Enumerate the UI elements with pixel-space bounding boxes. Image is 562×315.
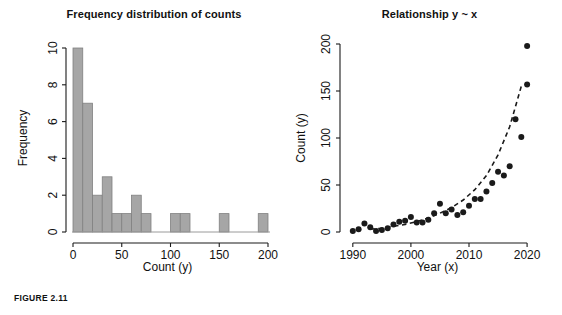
scatter-point <box>408 214 414 220</box>
scatter-point <box>350 228 356 234</box>
scatter-point <box>483 189 489 195</box>
histogram-x-axis-title: Count (y) <box>60 260 275 274</box>
histogram-y-tick-label: 2 <box>46 192 60 199</box>
scatter-point <box>501 173 507 179</box>
histogram-bar <box>141 214 151 232</box>
scatter-point <box>507 163 513 169</box>
scatter-point <box>431 210 437 216</box>
histogram-y-tick-label: 4 <box>46 155 60 162</box>
scatter-point <box>449 206 455 212</box>
scatter-point <box>390 221 396 227</box>
scatter-point <box>478 196 484 202</box>
scatter-panel: Relationship y ~ x 050100150200199020002… <box>285 0 562 290</box>
scatter-point <box>460 209 466 215</box>
histogram-y-tick-label: 6 <box>46 118 60 125</box>
histogram-y-tick-label: 8 <box>46 81 60 88</box>
scatter-point <box>367 224 373 230</box>
histogram-panel: Frequency distribution of counts 0246810… <box>0 0 290 290</box>
scatter-point <box>437 201 443 207</box>
scatter-point <box>443 210 449 216</box>
histogram-bar <box>102 177 112 232</box>
scatter-point <box>402 218 408 224</box>
figure-caption: FIGURE 2.11 <box>14 293 68 303</box>
scatter-y-tick-label: 50 <box>319 178 333 192</box>
histogram-bar <box>83 103 93 232</box>
scatter-point <box>361 221 367 227</box>
scatter-fit-line <box>370 86 521 229</box>
histogram-bar <box>219 214 229 232</box>
figure-root: Frequency distribution of counts 0246810… <box>0 0 562 315</box>
histogram-y-tick-label: 0 <box>46 228 60 235</box>
scatter-y-tick-label: 200 <box>319 34 333 54</box>
scatter-point <box>385 225 391 231</box>
scatter-point <box>420 220 426 226</box>
scatter-point <box>396 219 402 225</box>
scatter-x-axis-title: Year (x) <box>330 260 545 274</box>
histogram-bar <box>93 195 103 232</box>
histogram-plot: 0246810050100150200 <box>0 0 290 290</box>
histogram-y-axis-title: Frequency <box>16 98 30 178</box>
histogram-y-tick-label: 10 <box>46 41 60 55</box>
scatter-point <box>379 227 385 233</box>
scatter-plot: 0501001502001990200020102020 <box>285 0 562 290</box>
histogram-bar <box>122 214 132 232</box>
scatter-point <box>495 169 501 175</box>
scatter-point <box>466 203 472 209</box>
histogram-bar <box>180 214 190 232</box>
histogram-bar <box>112 214 122 232</box>
scatter-y-tick-label: 150 <box>319 81 333 101</box>
scatter-point <box>356 226 362 232</box>
scatter-point <box>489 180 495 186</box>
scatter-point <box>373 228 379 234</box>
histogram-bar <box>171 214 181 232</box>
scatter-y-axis-title: Count (y) <box>294 98 308 178</box>
scatter-point <box>425 217 431 223</box>
scatter-point <box>454 212 460 218</box>
scatter-y-tick-label: 0 <box>319 228 333 235</box>
scatter-point <box>524 81 530 87</box>
scatter-y-tick-label: 100 <box>319 128 333 148</box>
scatter-point <box>524 43 530 49</box>
histogram-bar <box>132 195 142 232</box>
histogram-bar <box>258 214 268 232</box>
scatter-point <box>518 134 524 140</box>
scatter-point <box>414 220 420 226</box>
histogram-bar <box>73 48 83 232</box>
scatter-point <box>472 196 478 202</box>
scatter-point <box>512 116 518 122</box>
